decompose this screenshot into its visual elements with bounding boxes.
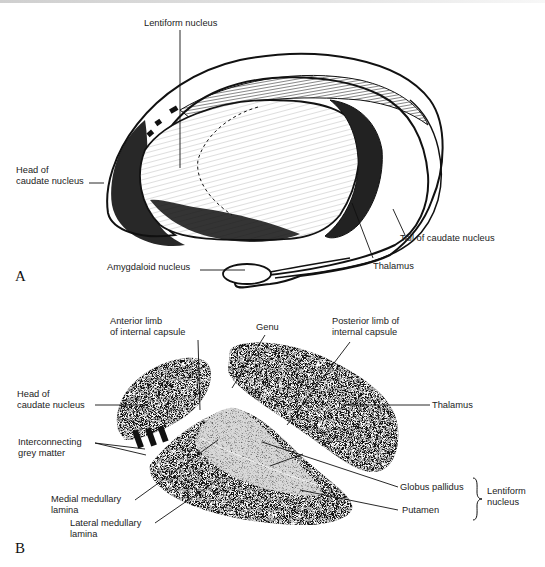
label-lateral-lamina-line2: lamina [70, 529, 97, 541]
label-medial-lamina-line1: Medial medullary [51, 494, 121, 506]
panel-letter-a: A [15, 268, 26, 285]
label-head-caudate-b-line1: Head of [17, 389, 50, 401]
label-amygdaloid: Amygdaloid nucleus [107, 262, 190, 274]
label-lentiform-nucleus: Lentiform nucleus [144, 18, 217, 30]
label-interconnecting-line2: grey matter [18, 448, 65, 460]
label-head-caudate-a-line2: caudate nucleus [16, 176, 84, 188]
label-posterior-limb-line2: internal capsule [332, 327, 397, 339]
label-thalamus-b: Thalamus [432, 400, 473, 412]
label-anterior-limb-line2: of internal capsule [110, 327, 185, 339]
label-head-caudate-a-line1: Head of [16, 165, 49, 177]
label-genu: Genu [256, 322, 279, 334]
label-head-caudate-b-line2: caudate nucleus [17, 400, 85, 412]
label-lentiform-b-line2: nucleus [487, 497, 519, 509]
label-tail-caudate: Tail of caudate nucleus [400, 233, 495, 245]
label-lentiform-b-line1: Lentiform [487, 486, 526, 498]
label-anterior-limb-line1: Anterior limb [110, 316, 162, 328]
label-lateral-lamina-line1: Lateral medullary [70, 518, 141, 530]
panel-letter-b: B [15, 540, 25, 557]
label-interconnecting-line1: Interconnecting [18, 437, 82, 449]
label-thalamus-a: Thalamus [373, 261, 414, 273]
label-medial-lamina-line2: lamina [51, 505, 78, 517]
label-posterior-limb-line1: Posterior limb of [332, 316, 399, 328]
label-globus-pallidus: Globus pallidus [400, 482, 464, 494]
label-putamen: Putamen [402, 505, 439, 517]
